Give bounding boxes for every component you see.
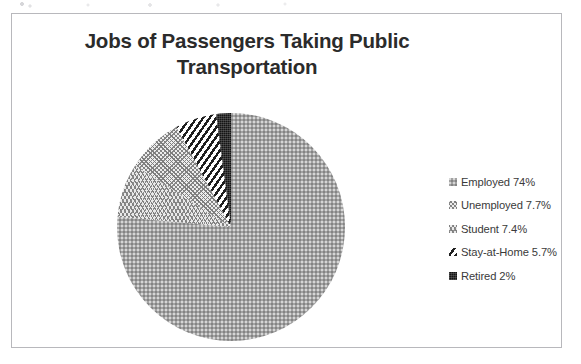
chart-title: Jobs of Passengers Taking Public Transpo… bbox=[52, 28, 442, 80]
pie-chart bbox=[117, 113, 345, 341]
legend-item-stay-at-home[interactable]: Stay-at-Home 5.7% bbox=[449, 241, 569, 265]
legend-item-retired[interactable]: Retired 2% bbox=[449, 264, 569, 288]
legend-swatch-student-icon bbox=[449, 225, 457, 233]
legend-label-unemployed: Unemployed 7.7% bbox=[461, 199, 551, 211]
legend-label-employed: Employed 74% bbox=[461, 176, 535, 188]
legend-item-unemployed[interactable]: Unemployed 7.7% bbox=[449, 194, 569, 218]
legend-swatch-unemployed-icon bbox=[449, 201, 457, 209]
legend-swatch-stay-at-home-icon bbox=[449, 248, 457, 256]
legend-label-stay-at-home: Stay-at-Home 5.7% bbox=[461, 246, 557, 258]
legend-label-student: Student 7.4% bbox=[461, 223, 527, 235]
chart-legend: Employed 74% Unemployed 7.7% Student 7.4… bbox=[449, 170, 569, 288]
legend-item-employed[interactable]: Employed 74% bbox=[449, 170, 569, 194]
legend-swatch-retired-icon bbox=[449, 272, 457, 280]
chart-frame: Jobs of Passengers Taking Public Transpo… bbox=[11, 13, 562, 348]
legend-label-retired: Retired 2% bbox=[461, 270, 515, 282]
chart-screenshot: Jobs of Passengers Taking Public Transpo… bbox=[0, 0, 581, 364]
scan-artifact-speckle bbox=[0, 0, 581, 11]
chart-title-line-2: Transportation bbox=[52, 54, 442, 80]
legend-item-student[interactable]: Student 7.4% bbox=[449, 217, 569, 241]
chart-title-line-1: Jobs of Passengers Taking Public bbox=[52, 28, 442, 54]
legend-swatch-employed-icon bbox=[449, 178, 457, 186]
